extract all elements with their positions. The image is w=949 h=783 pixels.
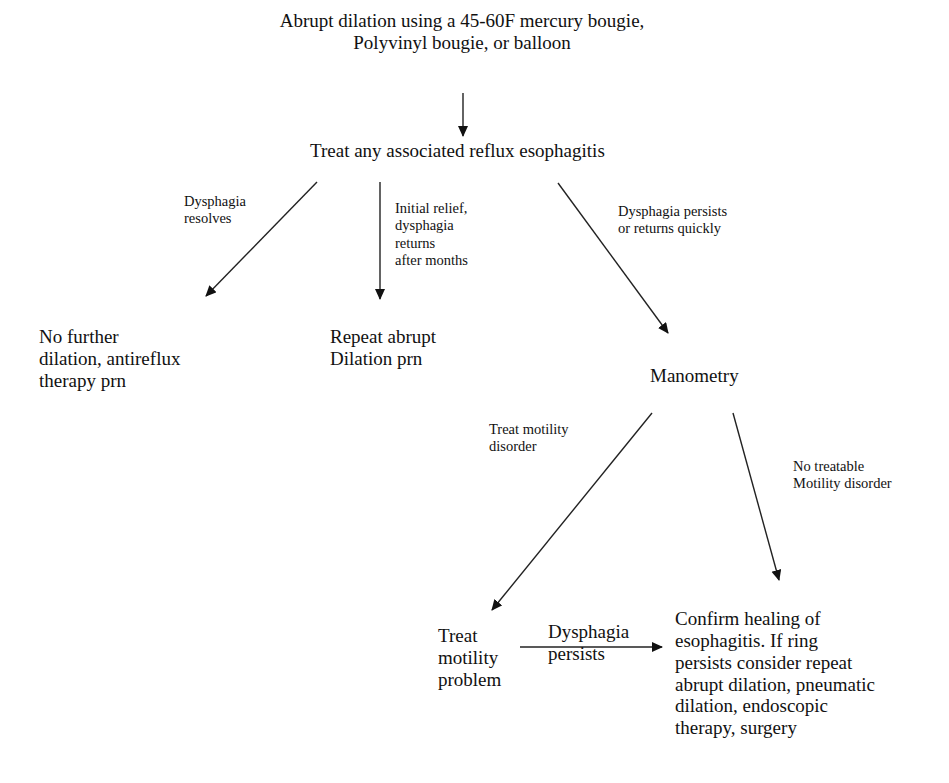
label-persists-or-returns: Dysphagia persists or returns quickly xyxy=(618,203,727,238)
label-dysphagia-persists: Dysphagia persists xyxy=(548,621,629,665)
label-initial-relief: Initial relief, dysphagia returns after … xyxy=(395,200,468,270)
node-no-further-dilation: No further dilation, antireflux therapy … xyxy=(39,326,180,392)
node-treat-reflux: Treat any associated reflux esophagitis xyxy=(310,140,605,162)
node-confirm-healing: Confirm healing of esophagitis. If ring … xyxy=(675,608,875,739)
node-manometry: Manometry xyxy=(650,365,739,387)
node-treat-motility-problem: Treat motility problem xyxy=(438,625,501,691)
label-dysphagia-resolves: Dysphagia resolves xyxy=(184,193,246,228)
node-abrupt-dilation: Abrupt dilation using a 45-60F mercury b… xyxy=(272,10,652,54)
label-treat-motility-disorder: Treat motility disorder xyxy=(489,421,569,456)
node-repeat-abrupt-dilation: Repeat abrupt Dilation prn xyxy=(330,326,436,370)
label-no-treatable-motility: No treatable Motility disorder xyxy=(793,458,892,493)
arrow-manometry-to-confirm xyxy=(733,413,779,580)
